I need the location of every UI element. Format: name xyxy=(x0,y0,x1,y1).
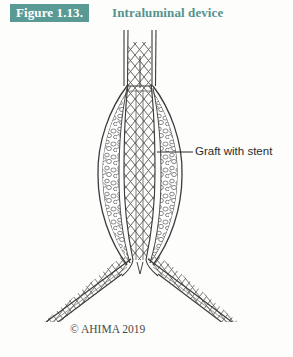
figure-container: Figure 1.13. Intraluminal device xyxy=(0,0,293,357)
callout-graft-with-stent: Graft with stent xyxy=(195,144,272,158)
copyright-notice: © AHIMA 2019 xyxy=(70,322,145,336)
figure-title: Intraluminal device xyxy=(112,4,223,22)
illustration-ink xyxy=(30,30,255,322)
intraluminal-device-diagram xyxy=(0,22,293,322)
figure-number-badge: Figure 1.13. xyxy=(10,4,89,22)
iliac-limb-right xyxy=(145,247,255,322)
diagram-canvas xyxy=(0,22,293,322)
iliac-limb-left xyxy=(30,247,140,322)
